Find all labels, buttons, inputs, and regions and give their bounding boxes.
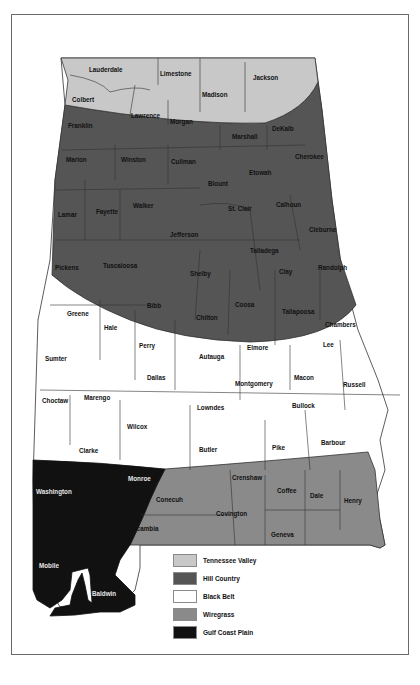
label-jefferson: Jefferson bbox=[170, 231, 198, 238]
label-greene: Greene bbox=[67, 310, 89, 317]
swatch-gulf-coast-plain bbox=[173, 626, 197, 639]
label-hale: Hale bbox=[104, 324, 118, 331]
label-dale: Dale bbox=[310, 492, 324, 499]
label-covington: Covington bbox=[216, 510, 247, 518]
swatch-wiregrass bbox=[173, 608, 197, 621]
swatch-black-belt bbox=[173, 590, 197, 603]
legend-item-wiregrass: Wiregrass bbox=[173, 605, 313, 623]
label-randolph: Randolph bbox=[318, 264, 347, 272]
label-henry: Henry bbox=[344, 497, 362, 505]
label-dekalb: DeKalb bbox=[272, 125, 294, 132]
label-sumter: Sumter bbox=[45, 355, 67, 362]
label-colbert: Colbert bbox=[72, 96, 95, 103]
label-clay: Clay bbox=[279, 268, 293, 276]
label-geneva: Geneva bbox=[271, 531, 294, 538]
legend-label: Wiregrass bbox=[203, 611, 234, 618]
label-cleburne: Cleburne bbox=[309, 226, 337, 233]
label-morgan: Morgan bbox=[170, 118, 193, 126]
label-perry: Perry bbox=[139, 342, 156, 350]
label-macon: Macon bbox=[294, 374, 314, 381]
legend-item-gulf-coast-plain: Gulf Coast Plain bbox=[173, 623, 313, 641]
label-bullock: Bullock bbox=[292, 402, 315, 409]
label-tallapoosa: Tallapoosa bbox=[282, 308, 315, 316]
label-cullman: Cullman bbox=[171, 158, 196, 165]
label-tuscaloosa: Tuscaloosa bbox=[103, 262, 138, 269]
label-lauderdale: Lauderdale bbox=[89, 66, 123, 73]
label-elmore: Elmore bbox=[247, 344, 269, 351]
label-walker: Walker bbox=[133, 202, 154, 209]
label-etowah: Etowah bbox=[249, 169, 272, 176]
label-mobile: Mobile bbox=[39, 562, 59, 569]
label-dallas: Dallas bbox=[147, 374, 166, 381]
label-chilton: Chilton bbox=[196, 314, 218, 321]
label-autauga: Autauga bbox=[199, 353, 225, 361]
label-lowndes: Lowndes bbox=[197, 404, 225, 411]
label-coffee: Coffee bbox=[277, 487, 297, 494]
label-marshall: Marshall bbox=[232, 133, 258, 140]
legend-item-black-belt: Black Belt bbox=[173, 587, 313, 605]
label-blount: Blount bbox=[208, 180, 229, 187]
label-conecuh: Conecuh bbox=[156, 496, 183, 503]
label-calhoun: Calhoun bbox=[276, 201, 301, 208]
label-cherokee: Cherokee bbox=[295, 153, 324, 160]
legend-label: Gulf Coast Plain bbox=[203, 629, 253, 636]
map-legend: Tennessee Valley Hill Country Black Belt… bbox=[173, 551, 313, 641]
label-russell: Russell bbox=[343, 381, 366, 388]
label-fayette: Fayette bbox=[96, 208, 119, 216]
label-franklin: Franklin bbox=[68, 122, 93, 129]
label-barbour: Barbour bbox=[321, 439, 346, 446]
label-coosa: Coosa bbox=[235, 301, 255, 308]
label-monroe: Monroe bbox=[128, 475, 151, 482]
label-montgomery: Montgomery bbox=[235, 380, 273, 388]
label-marion: Marion bbox=[66, 156, 87, 163]
label-shelby: Shelby bbox=[190, 270, 211, 278]
label-marengo: Marengo bbox=[84, 394, 110, 402]
label-escambia: Escambia bbox=[129, 525, 159, 532]
label-washington: Washington bbox=[36, 488, 72, 496]
label-lawrence: Lawrence bbox=[131, 112, 161, 119]
label-baldwin: Baldwin bbox=[92, 590, 116, 597]
label-wilcox: Wilcox bbox=[127, 423, 148, 430]
legend-item-tennessee-valley: Tennessee Valley bbox=[173, 551, 313, 569]
label-crenshaw: Crenshaw bbox=[232, 474, 262, 481]
swatch-tennessee-valley bbox=[173, 554, 197, 567]
label-choctaw: Choctaw bbox=[42, 397, 68, 404]
legend-label: Hill Country bbox=[203, 575, 240, 582]
label-butler: Butler bbox=[199, 446, 218, 453]
label-talladega: Talladega bbox=[250, 247, 279, 255]
label-jackson: Jackson bbox=[253, 74, 278, 81]
label-clarke: Clarke bbox=[79, 447, 99, 454]
label-madison: Madison bbox=[202, 91, 228, 98]
label-pike: Pike bbox=[272, 444, 285, 451]
label-lee: Lee bbox=[323, 341, 334, 348]
label-winston: Winston bbox=[121, 156, 146, 163]
label-bibb: Bibb bbox=[147, 302, 161, 309]
label-st-clair: St. Clair bbox=[228, 205, 252, 212]
legend-label: Black Belt bbox=[203, 593, 234, 600]
label-pickens: Pickens bbox=[55, 264, 79, 271]
legend-item-hill-country: Hill Country bbox=[173, 569, 313, 587]
label-limestone: Limestone bbox=[160, 70, 192, 77]
legend-label: Tennessee Valley bbox=[203, 557, 256, 564]
label-chambers: Chambers bbox=[325, 321, 356, 328]
swatch-hill-country bbox=[173, 572, 197, 585]
label-lamar: Lamar bbox=[58, 211, 77, 218]
